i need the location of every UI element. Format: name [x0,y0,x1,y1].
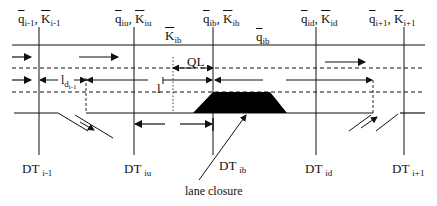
k-symbol: K [41,11,50,26]
label-q-k-i-minus-1: qi-1, Ki-1 [18,12,60,28]
label-q-k-id: qid, Kid [301,12,337,28]
diagram-graphics [0,0,437,206]
label-ld-i-minus-1: ldi-1 [61,74,77,91]
k-subscript: id [330,18,337,28]
detector-label-ib: DT ib [219,159,246,175]
dt-symbol: DT [22,161,39,176]
detector-label-id: DT id [305,162,332,178]
q-subscript: i+1 [376,18,388,28]
q-subscript: iu [122,18,129,28]
dt-subscript: iu [144,168,151,178]
q-subscript: id [308,18,315,28]
k-subscript: ib [174,35,181,45]
k-symbol: K [165,28,174,43]
k-symbol: K [321,11,330,26]
dt-symbol: DT [305,161,322,176]
dt-symbol: DT [219,158,236,173]
detector-label-iu: DT iu [124,162,151,178]
onramp-edge-1 [58,113,88,131]
k-symbol: K [135,11,144,26]
dt-symbol: DT [124,161,141,176]
k-subscript: i+1 [403,18,415,28]
k-subscript: ib [232,18,239,28]
offramp-edge-2 [376,114,398,131]
q-subscript: ib [210,18,217,28]
q-subscript: ib [263,36,270,46]
lane-closure-label: lane closure [185,185,243,197]
label-q-k-iu: qiu, Kiu [115,12,151,28]
label-q-k-ib: qib, Kib [203,12,239,28]
dt-subscript: i+1 [412,168,424,178]
label-l: l [157,82,161,95]
detector-label-i-minus-1: DT i-1 [22,162,52,178]
dt-symbol: DT [392,161,409,176]
q-subscript: i-1 [25,18,35,28]
label-k-ib-inner: Kib [165,29,181,45]
k-symbol: K [223,11,232,26]
dt-subscript: id [325,168,332,178]
label-q-ib-inner: qib [256,30,270,46]
offramp-arrow [361,117,377,128]
detector-label-i-plus-1: DT i+1 [392,162,424,178]
lane-closure-shape [193,92,287,113]
label-ql: QL [187,55,204,68]
onramp-arrow [80,122,94,130]
dt-subscript: ib [239,165,246,175]
k-subscript: i-1 [50,18,60,28]
label-q-k-i-plus-1: qi+1, Ki+1 [369,12,416,28]
freeway-diagram: qi-1, Ki-1 qiu, Kiu qib, Kib qid, Kid qi… [0,0,437,206]
l-sub-subscript: i-1 [69,83,77,91]
dt-subscript: i-1 [42,168,52,178]
k-subscript: iu [144,18,151,28]
